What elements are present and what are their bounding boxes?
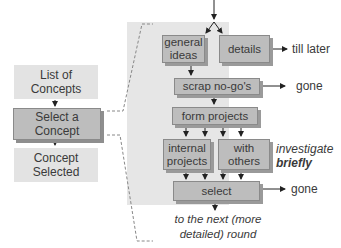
- briefly-label: briefly: [276, 156, 312, 170]
- list-of-concepts-box: List of Concepts: [14, 65, 98, 99]
- next-round-label: to the next (more detailed) round: [168, 212, 268, 242]
- scrap-no-gos-box: scrap no-go's: [174, 78, 260, 95]
- form-projects-box: form projects: [172, 107, 258, 125]
- next-round-line-1: to the next (more: [168, 212, 268, 227]
- gone-label-1: gone: [296, 79, 323, 93]
- form-projects-label: form projects: [182, 110, 248, 123]
- general-ideas-box: general ideas: [162, 35, 205, 63]
- general-ideas-label: general ideas: [163, 36, 204, 62]
- with-others-box: with others: [218, 139, 270, 170]
- investigate-label: investigate: [276, 142, 333, 156]
- select-a-concept-box: Select a Concept: [13, 108, 101, 140]
- concept-selected-box: Concept Selected: [14, 148, 98, 182]
- with-others-label: with others: [219, 142, 269, 168]
- select-box: select: [173, 181, 260, 201]
- details-box: details: [219, 35, 270, 63]
- till-later-label: till later: [292, 42, 330, 56]
- internal-projects-box: internal projects: [163, 139, 211, 170]
- gone-label-2: gone: [291, 182, 318, 196]
- next-round-line-2: detailed) round: [168, 227, 268, 242]
- details-label: details: [228, 43, 261, 56]
- select-label: select: [201, 185, 231, 198]
- scrap-no-gos-label: scrap no-go's: [183, 80, 252, 93]
- concept-selected-label: Concept Selected: [14, 151, 98, 179]
- internal-projects-label: internal projects: [164, 142, 210, 168]
- list-of-concepts-label: List of Concepts: [14, 68, 98, 96]
- select-a-concept-label: Select a Concept: [14, 110, 100, 138]
